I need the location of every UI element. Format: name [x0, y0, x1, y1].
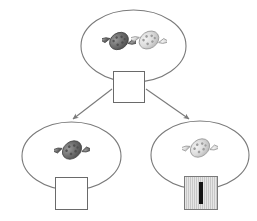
parent-answer-box[interactable] [113, 71, 145, 103]
candy-light-icon [131, 23, 167, 57]
worksheet-canvas: Candy sorting tree [0, 0, 257, 221]
left-answer-box[interactable] [55, 177, 88, 210]
arrow-parent-to-left [73, 89, 112, 119]
arrow-parent-to-right [146, 89, 189, 119]
text-caret [199, 182, 203, 204]
candy-dark-icon [54, 133, 90, 167]
right-answer-box[interactable] [184, 176, 218, 210]
candy-light-icon [182, 131, 218, 165]
